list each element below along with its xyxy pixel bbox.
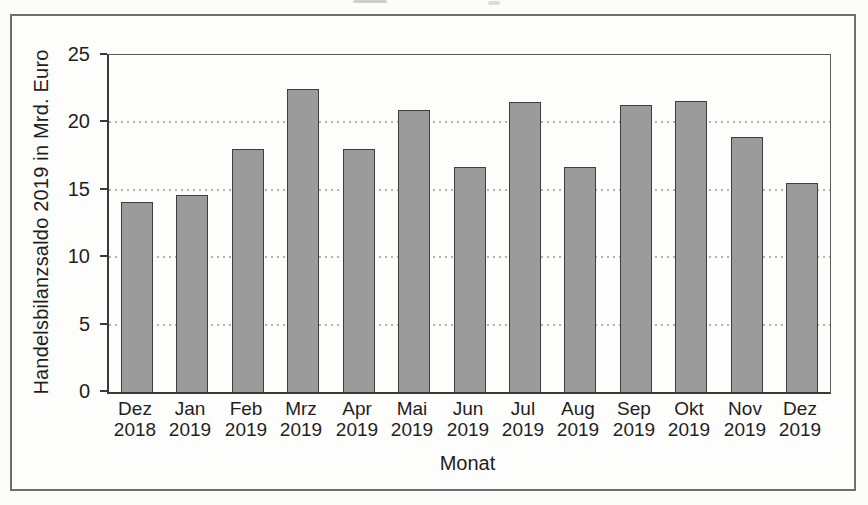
bar-sep-2019 [620, 105, 652, 392]
bar-aug-2019 [564, 167, 596, 392]
scan-artifact [488, 1, 500, 5]
plot-area [107, 54, 831, 394]
y-axis-title: Handelsbilanzsaldo 2019 in Mrd. Euro [30, 49, 53, 394]
bar-jul-2019 [509, 102, 541, 392]
x-label-dez-2019: Dez2019 [763, 398, 837, 440]
y-tick-label-0: 0 [12, 380, 90, 402]
y-tick-mark-15 [100, 188, 107, 190]
y-tick-mark-5 [100, 323, 107, 325]
bar-nov-2019 [731, 137, 763, 392]
bar-dez-2018 [121, 202, 153, 392]
x-label-month: Dez [763, 398, 837, 419]
y-tick-label-25: 25 [12, 43, 90, 65]
y-tick-mark-25 [100, 53, 107, 55]
y-tick-mark-20 [100, 120, 107, 122]
bar-dez-2019 [786, 183, 818, 392]
bar-mrz-2019 [287, 89, 319, 392]
bar-jun-2019 [454, 167, 486, 392]
bar-okt-2019 [675, 101, 707, 392]
bar-apr-2019 [343, 149, 375, 392]
chart-frame: Handelsbilanzsaldo 2019 in Mrd. Euro 051… [10, 14, 856, 491]
y-tick-mark-0 [100, 390, 107, 392]
gridline-20 [109, 121, 830, 123]
x-label-year: 2019 [763, 419, 837, 440]
bar-mai-2019 [398, 110, 430, 392]
y-tick-label-15: 15 [12, 178, 90, 200]
bar-feb-2019 [232, 149, 264, 392]
scanned-chart-page: Handelsbilanzsaldo 2019 in Mrd. Euro 051… [0, 0, 868, 505]
scan-artifact [353, 0, 387, 3]
bar-jan-2019 [176, 195, 208, 392]
y-tick-label-10: 10 [12, 245, 90, 267]
y-tick-mark-10 [100, 255, 107, 257]
y-tick-label-20: 20 [12, 110, 90, 132]
y-tick-label-5: 5 [12, 313, 90, 335]
x-axis-title: Monat [107, 452, 828, 475]
